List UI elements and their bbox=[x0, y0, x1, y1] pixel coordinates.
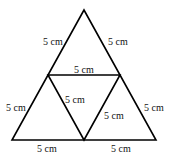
label-bottom-right-base: 5 cm bbox=[111, 143, 131, 154]
inner-triangle bbox=[48, 75, 120, 140]
triangle-diagram: 5 cm 5 cm 5 cm 5 cm 5 cm 5 cm 5 cm 5 cm … bbox=[0, 0, 170, 158]
label-lower-right-side: 5 cm bbox=[144, 102, 164, 113]
label-lower-left-side: 5 cm bbox=[6, 102, 26, 113]
label-inner-left-diagonal: 5 cm bbox=[65, 94, 85, 105]
label-top-left-side: 5 cm bbox=[43, 36, 63, 47]
label-middle-horizontal: 5 cm bbox=[74, 64, 94, 75]
label-inner-right-diagonal: 5 cm bbox=[104, 110, 124, 121]
label-top-right-side: 5 cm bbox=[108, 36, 128, 47]
label-bottom-left-base: 5 cm bbox=[37, 143, 57, 154]
